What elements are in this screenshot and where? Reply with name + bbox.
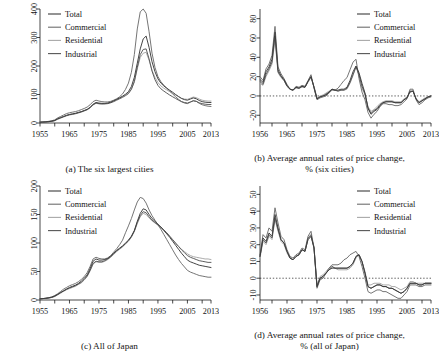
- figure-panel-grid: 0100200300400195519651975198519952005201…: [0, 0, 439, 354]
- panel-b-plot: -200204060801956196519751985199520052013…: [220, 0, 439, 177]
- legend-label-residential: Residential: [374, 213, 412, 222]
- x-tick-label: 1975: [309, 130, 325, 139]
- y-tick-label: 40: [250, 207, 259, 215]
- legend-label-commercial: Commercial: [374, 200, 416, 209]
- panel-a-caption: (a) The six largest cities: [0, 164, 219, 175]
- y-tick-label: 50: [30, 267, 39, 275]
- legend-label-industrial: Industrial: [65, 50, 98, 59]
- x-tick-label: 1985: [120, 130, 136, 139]
- legend-label-commercial: Commercial: [65, 23, 107, 32]
- x-tick-label: 2005: [399, 307, 415, 316]
- x-tick-label: 1965: [279, 307, 295, 316]
- x-tick-label: 2013: [423, 130, 439, 139]
- x-tick-label: 1995: [369, 130, 385, 139]
- y-tick-label: 100: [30, 237, 39, 249]
- x-tick-label: 1955: [32, 130, 48, 139]
- y-tick-label: 10: [250, 257, 259, 265]
- x-tick-label: 1975: [91, 307, 107, 316]
- y-tick-label: 50: [250, 190, 259, 198]
- panel-c-caption: (c) All of Japan: [0, 341, 219, 352]
- panel-d-caption: (d) Average annual rates of price change…: [220, 330, 439, 352]
- y-tick-label: 0: [30, 298, 39, 302]
- legend-label-total: Total: [374, 10, 392, 19]
- legend: TotalCommercialResidentialIndustrial: [48, 10, 107, 59]
- series-line-residential: [40, 52, 211, 122]
- series-line-industrial: [40, 212, 211, 299]
- legend-label-residential: Residential: [65, 36, 103, 45]
- x-tick-label: 1985: [339, 307, 355, 316]
- panel-d-plot: -100102030405019561965197519851995200520…: [220, 177, 439, 354]
- panel-a-plot: 0100200300400195519651975198519952005201…: [0, 0, 219, 177]
- y-tick-label: 0: [250, 276, 259, 280]
- legend-label-industrial: Industrial: [374, 227, 407, 236]
- legend: TotalCommercialResidentialIndustrial: [357, 10, 416, 59]
- legend-label-residential: Residential: [65, 213, 103, 222]
- y-tick-label: 200: [30, 180, 39, 192]
- legend-label-commercial: Commercial: [374, 23, 416, 32]
- y-tick-label: 0: [250, 94, 259, 98]
- x-tick-label: 2005: [179, 307, 195, 316]
- legend-label-total: Total: [65, 187, 83, 196]
- y-tick-label: 20: [250, 241, 259, 249]
- y-tick-label: 400: [30, 3, 39, 15]
- panel-c: 0501001502001955196519751985199520052013…: [0, 177, 219, 354]
- x-tick-label: 1955: [32, 307, 48, 316]
- legend-label-total: Total: [374, 187, 392, 196]
- x-tick-label: 1956: [252, 130, 268, 139]
- x-tick-label: 1995: [150, 307, 166, 316]
- y-tick-label: 40: [250, 53, 259, 61]
- y-tick-label: -10: [250, 290, 259, 301]
- x-tick-label: 1956: [252, 307, 268, 316]
- panel-b-caption: (b) Average annual rates of price change…: [220, 153, 439, 175]
- y-tick-label: 0: [30, 121, 39, 125]
- x-tick-label: 2005: [399, 130, 415, 139]
- legend-label-commercial: Commercial: [65, 200, 107, 209]
- x-tick-label: 1975: [309, 307, 325, 316]
- legend-label-industrial: Industrial: [65, 227, 98, 236]
- panel-a-caption-line1: (a) The six largest cities: [0, 164, 219, 175]
- y-tick-label: 100: [30, 88, 39, 100]
- y-tick-label: 300: [30, 31, 39, 43]
- y-tick-label: 80: [250, 15, 259, 23]
- x-tick-label: 1985: [339, 130, 355, 139]
- series-line-industrial: [260, 36, 431, 113]
- y-tick-label: -20: [250, 110, 259, 121]
- y-tick-label: 200: [30, 60, 39, 72]
- y-tick-label: 150: [30, 208, 39, 220]
- panel-d: -100102030405019561965197519851995200520…: [220, 177, 439, 354]
- panel-a: 0100200300400195519651975198519952005201…: [0, 0, 219, 177]
- x-tick-label: 1985: [120, 307, 136, 316]
- y-tick-label: 20: [250, 73, 259, 81]
- legend-label-residential: Residential: [374, 36, 412, 45]
- panel-c-plot: 0501001502001955196519751985199520052013…: [0, 177, 219, 354]
- legend-label-industrial: Industrial: [374, 50, 407, 59]
- x-tick-label: 1975: [91, 130, 107, 139]
- x-tick-label: 2013: [203, 307, 219, 316]
- x-tick-label: 2005: [179, 130, 195, 139]
- panel-d-caption-line1: (d) Average annual rates of price change…: [220, 330, 439, 341]
- panel-d-caption-line2: % (all of Japan): [220, 341, 439, 352]
- x-tick-label: 2013: [203, 130, 219, 139]
- x-tick-label: 1965: [61, 307, 77, 316]
- series-line-industrial: [40, 49, 211, 122]
- x-tick-label: 1965: [61, 130, 77, 139]
- x-tick-label: 1995: [150, 130, 166, 139]
- panel-b-caption-line2: % (six cities): [220, 164, 439, 175]
- panel-b: -200204060801956196519751985199520052013…: [220, 0, 439, 177]
- legend-label-total: Total: [65, 10, 83, 19]
- panel-c-caption-line1: (c) All of Japan: [0, 341, 219, 352]
- legend: TotalCommercialResidentialIndustrial: [357, 187, 416, 236]
- legend: TotalCommercialResidentialIndustrial: [48, 187, 107, 236]
- y-tick-label: 30: [250, 224, 259, 232]
- x-tick-label: 1995: [369, 307, 385, 316]
- y-tick-label: 60: [250, 34, 259, 42]
- panel-b-caption-line1: (b) Average annual rates of price change…: [220, 153, 439, 164]
- x-tick-label: 1965: [279, 130, 295, 139]
- x-tick-label: 2013: [423, 307, 439, 316]
